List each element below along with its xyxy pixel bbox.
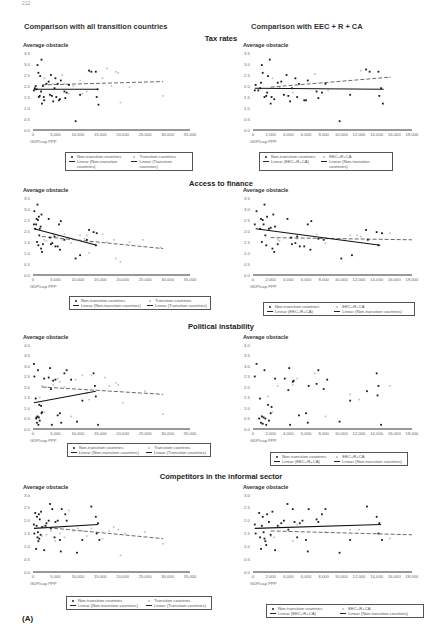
x-axis-title: GDP/cap PPP: [30, 284, 57, 289]
transition-point: [292, 540, 294, 542]
non-transition-point: [75, 120, 77, 122]
non-transition-point: [378, 522, 380, 524]
x-tick-label: 4,000: [283, 277, 294, 282]
chart-tax-right: Average obstacle0.00.51.01.52.02.53.03.5…: [220, 40, 442, 140]
transition-point: [360, 70, 362, 72]
x-tick-label: 12,000: [353, 132, 366, 137]
non-transition-point: [277, 243, 279, 245]
non-transition-point: [307, 422, 309, 424]
non-transition-point: [50, 388, 52, 390]
non-transition-point: [76, 552, 78, 554]
x-tick-label: 0: [32, 277, 35, 282]
non-transition-point: [284, 378, 286, 380]
light-dot-marker-icon: [148, 447, 150, 449]
non-transition-point: [90, 71, 92, 73]
transition-point: [106, 68, 108, 70]
transition-point: [88, 399, 90, 401]
non-transition-point: [310, 249, 312, 251]
non-transition-point: [76, 421, 78, 423]
non-transition-point: [349, 539, 351, 541]
x-tick-label: 25,000: [139, 431, 152, 436]
row-title-informal-competitors: Competitors in the informal sector: [0, 472, 442, 481]
non-transition-point: [46, 83, 48, 85]
transition-point: [82, 93, 84, 95]
y-tick-label: 2.5: [244, 73, 250, 78]
non-transition-point: [66, 369, 68, 371]
non-transition-point: [256, 363, 258, 365]
non-transition-point: [262, 72, 264, 74]
non-transition-point: [291, 243, 293, 245]
non-transition-point: [39, 518, 41, 520]
x-tick-label: 15,000: [94, 132, 107, 137]
non-transition-point: [270, 103, 272, 105]
transition-point: [57, 378, 59, 380]
y-tick-label: 2.0: [244, 229, 250, 234]
y-tick-label: 2.0: [24, 518, 30, 523]
non-transition-point: [54, 236, 56, 238]
light-dot-marker-icon: [323, 156, 325, 158]
non-transition-point: [37, 536, 39, 538]
y-tick-label: 3.0: [244, 207, 250, 212]
non-transition-point: [316, 91, 318, 93]
non-transition-point: [93, 231, 95, 233]
non-transition-point: [43, 549, 45, 551]
non-transition-point: [33, 224, 35, 226]
dark-dot-marker-icon: [71, 156, 73, 158]
trendline-dashed: [42, 82, 163, 85]
transition-point: [115, 71, 117, 73]
non-transition-point: [66, 92, 68, 94]
x-tick-label: 35,000: [184, 574, 197, 579]
y-tick-label: 1.0: [244, 251, 250, 256]
transition-point: [52, 384, 54, 386]
non-transition-point: [68, 84, 70, 86]
non-transition-point: [34, 512, 36, 514]
non-transition-point: [263, 224, 265, 226]
y-tick-label: 3.5: [244, 51, 250, 56]
non-transition-point: [296, 96, 298, 98]
non-transition-point: [36, 525, 38, 527]
non-transition-point: [41, 411, 43, 413]
page-number: 212: [22, 0, 30, 6]
transition-point: [39, 397, 41, 399]
transition-point: [296, 524, 298, 526]
transition-point: [86, 91, 88, 93]
transition-point: [91, 528, 93, 530]
transition-point: [79, 235, 81, 237]
non-transition-point: [277, 82, 279, 84]
transition-point: [325, 242, 327, 244]
non-transition-point: [33, 376, 35, 378]
y-tick-label: 2.5: [244, 218, 250, 223]
non-transition-point: [378, 385, 380, 387]
x-tick-label: 5,000: [50, 132, 61, 137]
x-tick-label: 10,000: [71, 132, 84, 137]
x-tick-label: 12,000: [353, 277, 366, 282]
non-transition-point: [268, 420, 270, 422]
transition-point: [129, 241, 131, 243]
transition-point: [86, 235, 88, 237]
y-tick-label: 0.0: [24, 128, 30, 133]
non-transition-point: [289, 424, 291, 426]
transition-point: [120, 555, 122, 557]
transition-point: [75, 379, 77, 381]
dark-dot-marker-icon: [265, 156, 267, 158]
non-transition-point: [274, 549, 276, 551]
non-transition-point: [280, 522, 282, 524]
legend-tax-left: Non-transition countries Transition coun…: [65, 152, 193, 171]
non-transition-point: [48, 520, 50, 522]
y-tick-label: 3.0: [24, 364, 30, 369]
non-transition-point: [264, 540, 266, 542]
non-transition-point: [55, 96, 57, 98]
y-tick-label: 2.0: [24, 84, 30, 89]
transition-point: [106, 241, 108, 243]
x-tick-label: 10,000: [71, 574, 84, 579]
non-transition-point: [303, 246, 305, 248]
non-transition-point: [254, 376, 256, 378]
non-transition-point: [274, 226, 276, 228]
figure-label: (A): [22, 614, 33, 623]
non-transition-point: [369, 71, 371, 73]
legend-label: Linear (Transition countries): [154, 450, 206, 455]
transition-point: [102, 234, 104, 236]
x-tick-label: 30,000: [161, 132, 174, 137]
transition-point: [389, 538, 391, 540]
non-transition-point: [262, 516, 264, 518]
